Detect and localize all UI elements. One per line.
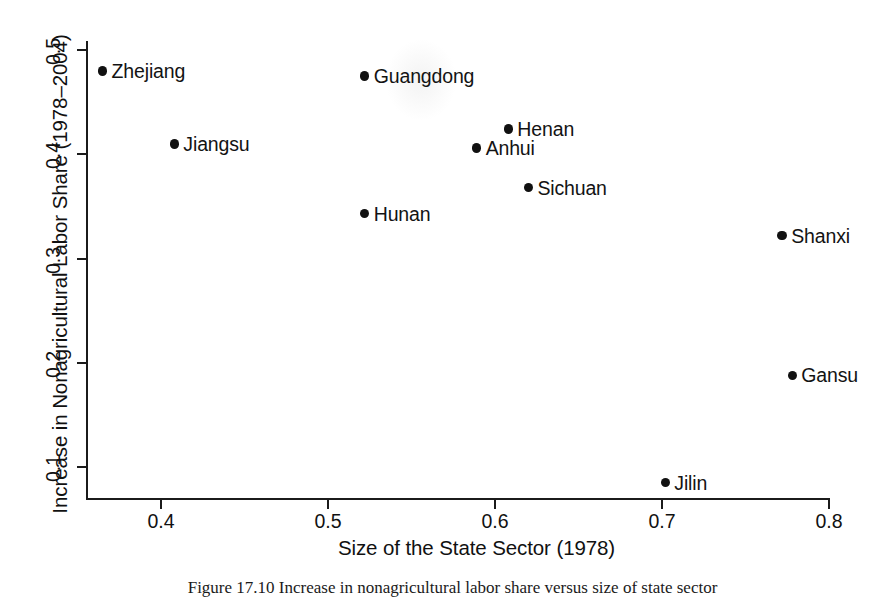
data-point [777,231,787,241]
x-axis-label-text: Size of the State Sector (1978) [338,536,615,560]
y-axis-line [86,41,88,500]
data-point [661,478,671,488]
data-point-label: Jiangsu [183,133,249,156]
data-point-label: Jilin [674,472,707,495]
figure-caption: Figure 17.10 Increase in nonagricultural… [0,578,881,597]
x-tick-mark [160,500,162,509]
y-tick-mark [77,153,86,155]
data-point [98,66,108,76]
x-tick-mark [327,500,329,509]
scatter-plot-figure: Increase in Nonagricultural Labor Share … [0,0,881,597]
y-tick-mark [77,258,86,260]
data-point-label: Guangdong [374,65,475,88]
x-axis-label: Size of the State Sector (1978) [0,536,881,560]
y-tick-label: 0.1 [42,444,65,494]
x-tick-label: 0.5 [298,510,358,533]
y-tick-mark [77,362,86,364]
x-tick-mark [661,500,663,509]
x-tick-mark [494,500,496,509]
data-point-label: Hunan [374,203,431,226]
x-tick-label: 0.6 [465,510,525,533]
data-point [472,143,482,153]
y-tick-label: 0.2 [42,339,65,389]
y-tick-label: 0.5 [42,27,65,77]
x-axis-line [86,498,830,500]
y-tick-mark [77,49,86,51]
data-point-label: Henan [517,118,574,141]
data-point-label: Gansu [801,364,858,387]
y-tick-label: 0.3 [42,235,65,285]
figure-caption-text: Figure 17.10 Increase in nonagricultural… [188,578,718,597]
y-tick-mark [77,466,86,468]
data-point-label: Zhejiang [112,60,186,83]
data-point [504,124,514,134]
data-point-label: Shanxi [791,225,850,248]
data-point [788,371,798,381]
x-tick-label: 0.8 [799,510,859,533]
x-tick-label: 0.4 [131,510,191,533]
data-point [170,139,180,149]
data-point [524,183,534,193]
y-tick-label: 0.4 [42,131,65,181]
x-tick-label: 0.7 [632,510,692,533]
data-point-label: Sichuan [537,177,606,200]
data-point [360,209,370,219]
x-tick-mark [828,500,830,509]
data-point [360,71,370,81]
